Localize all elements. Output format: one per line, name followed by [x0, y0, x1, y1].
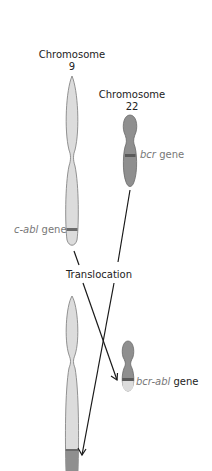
- chromosome-9: [66, 76, 79, 245]
- chromosome-22-number: 22: [126, 101, 139, 113]
- chromosome-22: [123, 115, 137, 187]
- bcr-abl-gene-name: bcr-abl: [136, 376, 170, 387]
- bcr-abl-gene-label: bcr-abl gene: [136, 376, 198, 388]
- bcr-gene-suffix: gene: [156, 149, 184, 160]
- arrow-bcr-to-der9: [78, 190, 130, 455]
- derivative-chromosome-9: [65, 296, 78, 471]
- cabl-band: [67, 228, 78, 231]
- cabl-gene-name: c-abl: [14, 224, 38, 235]
- bcr-gene-name: bcr: [140, 149, 156, 160]
- bcr-abl-band: [122, 378, 134, 381]
- bcr-gene-label: bcr gene: [140, 149, 184, 161]
- bcr-abl-gene-suffix: gene: [170, 376, 198, 387]
- chromosome-9-number: 9: [69, 61, 75, 73]
- chromosome-22-title: Chromosome: [99, 89, 165, 101]
- cabl-gene-suffix: gene: [38, 224, 66, 235]
- cabl-gene-label: c-abl gene: [14, 224, 67, 236]
- chromosome-9-title: Chromosome: [39, 49, 105, 61]
- translocation-label: Translocation: [66, 269, 132, 281]
- philadelphia-chromosome: [122, 341, 134, 391]
- bcr-band: [125, 154, 136, 157]
